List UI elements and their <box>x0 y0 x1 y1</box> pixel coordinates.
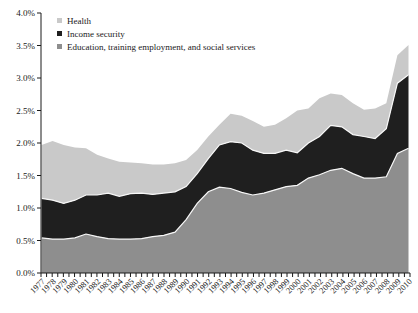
y-tick-label: 1.5% <box>16 171 35 181</box>
health-swatch-icon <box>57 18 62 23</box>
legend-label-health: Health <box>67 16 91 26</box>
y-tick-label: 2.5% <box>16 106 35 116</box>
legend-label-education: Education, training employment, and soci… <box>67 42 255 52</box>
legend-label-income-security: Income security <box>67 29 125 39</box>
y-tick-label: 2.0% <box>16 138 35 148</box>
y-tick-label: 4.0% <box>16 8 35 18</box>
education-swatch-icon <box>57 44 62 49</box>
legend-item-education: Education, training employment, and soci… <box>57 40 255 53</box>
legend-item-health: Health <box>57 14 255 27</box>
legend: Health Income security Education, traini… <box>57 14 255 53</box>
y-tick-label: 3.5% <box>16 41 35 51</box>
y-tick-label: 0.5% <box>16 236 35 246</box>
income-security-swatch-icon <box>57 31 62 36</box>
stacked-area-chart-figure: 0.0%0.5%1.0%1.5%2.0%2.5%3.0%3.5%4.0%1977… <box>0 0 418 313</box>
y-tick-label: 0.0% <box>16 268 35 278</box>
y-tick-label: 1.0% <box>16 203 35 213</box>
legend-item-income-security: Income security <box>57 27 255 40</box>
y-tick-label: 3.0% <box>16 73 35 83</box>
